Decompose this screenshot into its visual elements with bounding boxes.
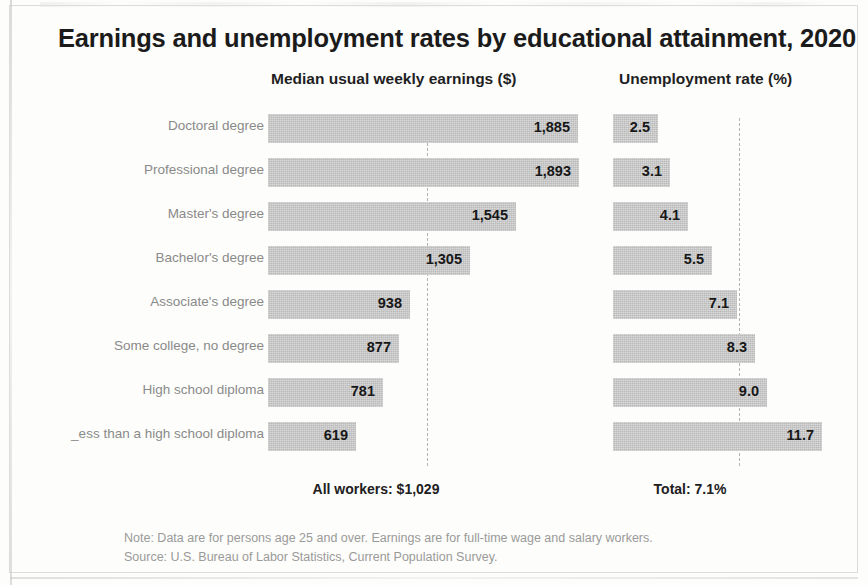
- source-line: Source: U.S. Bureau of Labor Statistics,…: [124, 548, 653, 567]
- category-label: Some college, no degree: [18, 338, 264, 353]
- earnings-value-label: 1,545: [472, 207, 508, 223]
- chart-row: Associate's degree9387.1: [0, 289, 868, 333]
- category-label-wrap: Associate's degree: [14, 289, 264, 319]
- category-label: Associate's degree: [18, 294, 264, 309]
- chart-row: Master's degree1,5454.1: [0, 201, 868, 245]
- footnotes: Note: Data are for persons age 25 and ov…: [124, 529, 653, 567]
- unemployment-value-label: 7.1: [709, 295, 729, 311]
- chart-rows: Doctoral degree1,8852.5Professional degr…: [0, 113, 868, 465]
- category-label-wrap: Some college, no degree: [14, 333, 264, 363]
- scan-edge-bottom: [10, 577, 858, 579]
- category-label: Professional degree: [18, 162, 264, 177]
- earnings-value-label: 938: [378, 295, 402, 311]
- unemployment-value-label: 3.1: [642, 163, 662, 179]
- earnings-value-label: 1,885: [534, 119, 570, 135]
- unemployment-value-label: 4.1: [660, 207, 680, 223]
- chart-row: Professional degree1,8933.1: [0, 157, 868, 201]
- category-label: Doctoral degree: [18, 118, 264, 133]
- category-label-wrap: _ess than a high school diploma: [14, 421, 264, 451]
- unemployment-value-label: 2.5: [630, 119, 650, 135]
- earnings-value-label: 1,893: [535, 163, 571, 179]
- earnings-value-label: 877: [367, 339, 391, 355]
- unemployment-value-label: 11.7: [787, 427, 814, 443]
- chart-row: Doctoral degree1,8852.5: [0, 113, 868, 157]
- earnings-bar: [268, 158, 579, 187]
- unemployment-value-label: 8.3: [727, 339, 747, 355]
- total-earnings-label: All workers: $1,029: [313, 481, 440, 497]
- chart-page: Earnings and unemployment rates by educa…: [0, 0, 868, 585]
- earnings-bar: [268, 114, 578, 143]
- scan-speck-top: [40, 2, 830, 7]
- chart-row: Bachelor's degree1,3055.5: [0, 245, 868, 289]
- category-label-wrap: Master's degree: [14, 201, 264, 231]
- chart-title: Earnings and unemployment rates by educa…: [58, 24, 856, 53]
- earnings-value-label: 781: [351, 383, 375, 399]
- earnings-value-label: 619: [324, 427, 348, 443]
- category-label-wrap: High school diploma: [14, 377, 264, 407]
- chart-row: High school diploma7819.0: [0, 377, 868, 421]
- unemployment-value-label: 5.5: [684, 251, 704, 267]
- category-label: _ess than a high school diploma: [18, 426, 264, 441]
- chart-row: Some college, no degree8778.3: [0, 333, 868, 377]
- chart-row: _ess than a high school diploma61911.7: [0, 421, 868, 465]
- earnings-value-label: 1,305: [426, 251, 462, 267]
- column-header-unemployment: Unemployment rate (%): [619, 70, 792, 88]
- note-line: Note: Data are for persons age 25 and ov…: [124, 529, 653, 548]
- category-label-wrap: Doctoral degree: [14, 113, 264, 143]
- category-label: Bachelor's degree: [18, 250, 264, 265]
- category-label: High school diploma: [18, 382, 264, 397]
- category-label: Master's degree: [18, 206, 264, 221]
- category-label-wrap: Professional degree: [14, 157, 264, 187]
- category-label-wrap: Bachelor's degree: [14, 245, 264, 275]
- unemployment-value-label: 9.0: [739, 383, 759, 399]
- column-header-earnings: Median usual weekly earnings ($): [271, 70, 517, 88]
- total-unemployment-label: Total: 7.1%: [654, 481, 727, 497]
